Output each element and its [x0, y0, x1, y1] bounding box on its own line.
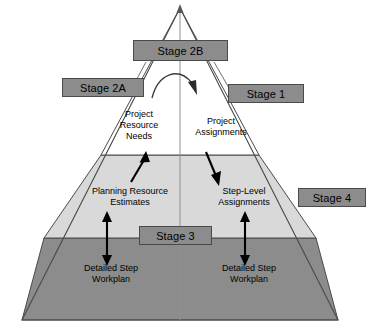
stage-2a-label: Stage 2A	[80, 82, 126, 94]
label-detailed-step-workplan-right: Detailed Step Workplan	[203, 263, 295, 285]
label-project-resource-needs: Project Resource Needs	[104, 109, 174, 142]
stage-box-stage-1[interactable]: Stage 1	[228, 84, 304, 103]
diagram-canvas: Stage 2B Stage 2A Stage 1 Stage 4 Stage …	[0, 0, 378, 331]
stage-2b-label: Stage 2B	[157, 45, 203, 57]
stage-box-stage-4[interactable]: Stage 4	[298, 188, 366, 207]
stage-3-label: Stage 3	[156, 230, 195, 242]
label-detailed-step-workplan-left: Detailed Step Workplan	[65, 263, 157, 285]
stage-1-label: Stage 1	[247, 88, 286, 100]
label-planning-resource-estimates: Planning Resource Estimates	[76, 186, 184, 208]
stage-box-stage-2b[interactable]: Stage 2B	[133, 40, 228, 61]
label-project-assignments: Project Assignments	[183, 116, 259, 138]
label-step-level-assignments: Step-Level Assignments	[196, 186, 292, 208]
stage-box-stage-3[interactable]: Stage 3	[139, 226, 212, 245]
stage-box-stage-2a[interactable]: Stage 2A	[62, 78, 144, 97]
apex-arrowhead-icon	[177, 4, 184, 13]
stage-4-label: Stage 4	[313, 192, 352, 204]
